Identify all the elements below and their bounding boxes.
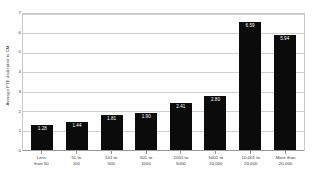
y-axis-tick-label: 4 <box>19 70 21 74</box>
y-axis-tick-label: 3 <box>19 90 21 94</box>
x-axis-tick-mark <box>250 151 251 154</box>
bar-value-label: 1.90 <box>142 115 151 120</box>
bar[interactable]: 1.44 <box>66 122 88 150</box>
x-axis-tick-mark <box>215 151 216 154</box>
bar[interactable]: 1.28 <box>31 125 53 150</box>
x-axis-tick-mark <box>146 151 147 154</box>
x-tick-slot <box>94 151 129 154</box>
plot-area: 1.281.441.811.902.412.806.595.94 <box>22 13 305 151</box>
x-axis-category-label-line: 10,000 <box>199 161 232 167</box>
x-axis-category-label: More than20,000 <box>268 155 303 179</box>
x-axis-tick-marks <box>22 151 305 154</box>
bar-slot: 1.90 <box>129 14 164 150</box>
y-axis-tick-label: 0 <box>19 149 21 153</box>
bar-slot: 5.94 <box>267 14 302 150</box>
x-axis-category-label: 501 to1000 <box>129 155 164 179</box>
x-axis-category-label: Lessthan 50 <box>24 155 59 179</box>
x-axis-category-label-line: 500 <box>95 161 128 167</box>
bar-value-label: 2.80 <box>211 98 220 103</box>
x-axis-tick-mark <box>111 151 112 154</box>
y-axis-title-text: Average FTE dedicated to CM <box>5 45 10 105</box>
x-tick-slot <box>233 151 268 154</box>
y-axis-tick-label: 7 <box>19 11 21 15</box>
x-axis-category-label-line: 100 <box>60 161 93 167</box>
bar-slot: 1.28 <box>25 14 60 150</box>
x-tick-slot <box>59 151 94 154</box>
x-axis-tick-mark <box>41 151 42 154</box>
y-axis-tick-labels: 01234567 <box>13 13 22 151</box>
x-axis-category-label-line: 1000 <box>130 161 163 167</box>
bar-value-label: 6.59 <box>246 24 255 29</box>
bar-value-label: 1.81 <box>107 117 116 122</box>
x-axis-tick-mark <box>76 151 77 154</box>
x-axis-category-label-line: than 50 <box>25 161 58 167</box>
bar-slot: 2.41 <box>164 14 199 150</box>
x-axis-category-label: 51 to100 <box>59 155 94 179</box>
x-axis-category-label: 10,001 to20,000 <box>233 155 268 179</box>
bar-value-label: 5.94 <box>280 37 289 42</box>
x-axis-tick-mark <box>285 151 286 154</box>
y-axis-tick-label: 1 <box>19 129 21 133</box>
x-axis-category-label: 101 to500 <box>94 155 129 179</box>
bar-slot: 6.59 <box>233 14 268 150</box>
y-axis-tick-label: 6 <box>19 31 21 35</box>
x-tick-slot <box>268 151 303 154</box>
bar[interactable]: 5.94 <box>274 35 296 150</box>
x-axis-category-label: 5001 to10,000 <box>198 155 233 179</box>
bar-slot: 1.44 <box>60 14 95 150</box>
bar-slot: 2.80 <box>198 14 233 150</box>
x-tick-slot <box>198 151 233 154</box>
bar-value-label: 1.44 <box>72 124 81 129</box>
bar-slot: 1.81 <box>94 14 129 150</box>
bar[interactable]: 6.59 <box>239 22 261 150</box>
x-axis-category-label-line: 5000 <box>165 161 198 167</box>
x-axis-category-labels: Lessthan 5051 to100101 to500501 to100010… <box>22 155 305 179</box>
bars-layer: 1.281.441.811.902.412.806.595.94 <box>23 14 304 150</box>
bar[interactable]: 1.90 <box>135 113 157 150</box>
x-tick-slot <box>24 151 59 154</box>
x-tick-slot <box>129 151 164 154</box>
y-axis-title: Average FTE dedicated to CM <box>0 0 14 150</box>
bar-value-label: 2.41 <box>176 105 185 110</box>
bar-value-label: 1.28 <box>38 127 47 132</box>
bar-chart-figure: Average FTE dedicated to CM 01234567 1.2… <box>0 0 315 182</box>
x-axis-category-label: 1001 to5000 <box>164 155 199 179</box>
y-axis-tick-label: 5 <box>19 50 21 54</box>
bar[interactable]: 1.81 <box>101 115 123 150</box>
bar[interactable]: 2.80 <box>204 96 226 150</box>
y-axis-tick-label: 2 <box>19 109 21 113</box>
x-axis-category-label-line: 20,000 <box>234 161 267 167</box>
x-axis-category-label-line: 20,000 <box>269 161 302 167</box>
x-axis-tick-mark <box>180 151 181 154</box>
x-tick-slot <box>164 151 199 154</box>
bar[interactable]: 2.41 <box>170 103 192 150</box>
